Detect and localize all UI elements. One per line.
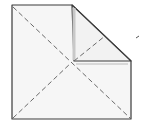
stray-mark [136,36,139,38]
origami-diagram [0,0,142,138]
folded-flap [72,5,131,61]
